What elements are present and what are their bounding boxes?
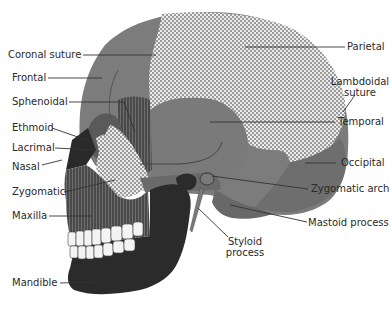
label-temporal: Temporal [338,116,384,127]
label-nasal: Nasal [12,161,40,172]
label-lambdoidal-line2: suture [330,87,390,98]
label-zygomatic: Zygomatic [12,186,65,197]
label-mandible: Mandible [12,277,58,288]
label-parietal: Parietal [347,41,385,52]
label-maxilla: Maxilla [12,210,47,221]
label-styloid-line2: process [220,247,270,258]
skull-diagram [0,0,391,311]
label-coronal-suture: Coronal suture [8,49,81,60]
label-lacrimal: Lacrimal [12,142,55,153]
temporal-bone [145,98,248,186]
label-styloid-line1: Styloid [220,236,270,247]
ear-canal [200,173,214,185]
label-ethmoid: Ethmoid [12,122,54,133]
label-zygomatic-arch: Zygomatic arch [311,183,389,194]
styloid-process-shape [190,188,204,232]
label-occipital: Occipital [341,157,385,168]
label-sphenoidal: Sphenoidal [12,96,68,107]
label-styloid-process: Styloid process [220,236,270,258]
label-lambdoidal-suture: Lambdoidal suture [330,76,390,98]
label-frontal: Frontal [12,72,46,83]
label-mastoid-process: Mastoid process [308,217,389,228]
label-lambdoidal-line1: Lambdoidal [330,76,390,87]
